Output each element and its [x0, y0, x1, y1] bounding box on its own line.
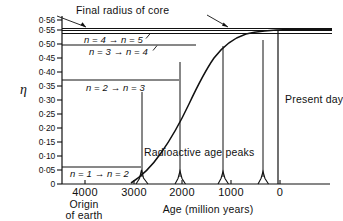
transition-label-n1-n2: n = 1 → n = 2 — [70, 168, 129, 179]
transition-label-n3-n4: n = 3 → n = 4 — [89, 46, 148, 57]
y-tick-label: 0·35 — [25, 81, 55, 91]
y-tick-label: 0·56 — [25, 15, 55, 25]
radioactive-peaks — [136, 170, 269, 184]
callout-arrow-right-head — [222, 23, 228, 27]
transition-label-n4-n5: n = 4 → n = 5 — [84, 34, 143, 45]
y-tick-label: 0·40 — [25, 67, 55, 77]
y-tick-label: 0·30 — [25, 95, 55, 105]
y-tick-label: 0·25 — [25, 109, 55, 119]
y-tick-label: 0 — [25, 179, 55, 189]
y-tick-label: 0·45 — [25, 53, 55, 63]
n3-n4-tick — [153, 46, 157, 51]
x-tick-label: 0 — [257, 186, 303, 198]
x-axis-title: Age (million years) — [148, 203, 268, 215]
y-tick-label: 0·10 — [25, 151, 55, 161]
transition-label-n2-n3: n = 2 → n = 3 — [86, 82, 145, 93]
final-radius-callout-arrows — [57, 15, 228, 27]
peak-shape-3 — [218, 172, 229, 185]
x-tick-label: 4000 — [62, 186, 108, 198]
y-tick-label: 0·20 — [25, 123, 55, 133]
final-radius-annotation: Final radius of core — [76, 4, 169, 16]
y-tick-label: 0·50 — [25, 39, 55, 49]
peak-shape-2 — [175, 171, 186, 184]
y-tick-label: 0·15 — [25, 137, 55, 147]
origin-caption-line2: of earth — [54, 209, 114, 221]
n4-n5-tick — [146, 34, 150, 39]
x-tick-label: 2000 — [159, 186, 205, 198]
y-tick-label: 0·55 — [25, 25, 55, 35]
y-tick-label: 0·05 — [25, 165, 55, 175]
core-growth-curve — [131, 29, 332, 183]
present-day-label: Present day — [285, 93, 343, 105]
peak-shape-4 — [258, 172, 269, 185]
radioactive-age-peaks-label: Radioactive age peaks — [144, 146, 254, 158]
y-axis-ticks — [57, 20, 62, 184]
x-tick-label: 3000 — [111, 186, 157, 198]
x-tick-label: 1000 — [208, 186, 254, 198]
